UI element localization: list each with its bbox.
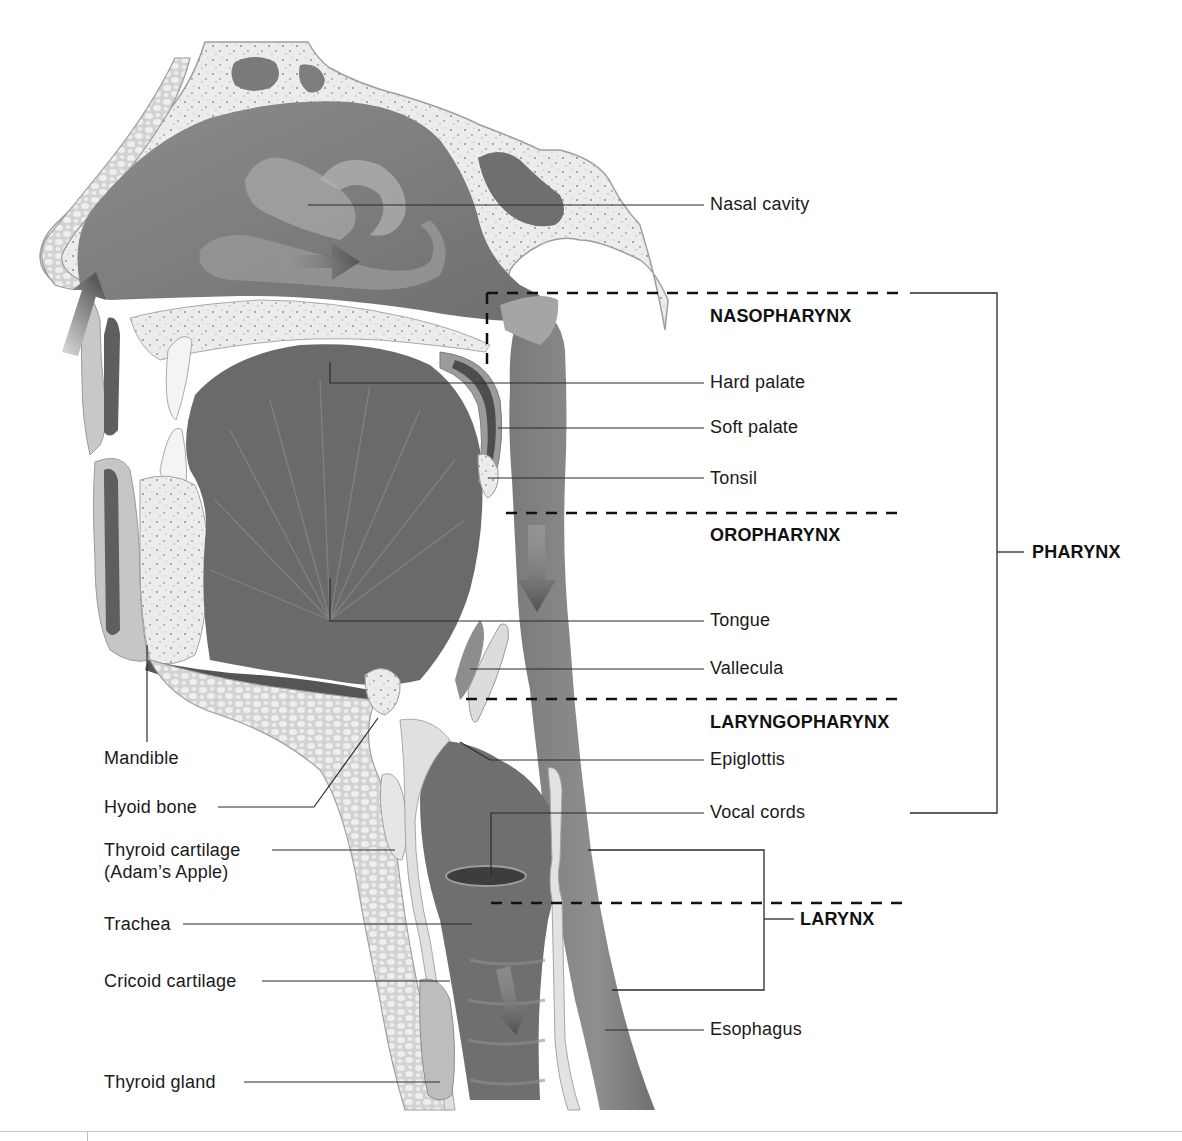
label-trachea: Trachea <box>104 913 171 935</box>
label-tongue: Tongue <box>710 609 770 631</box>
larynx-bracket <box>588 850 764 990</box>
leader-epiglottis <box>460 742 704 760</box>
region-label-nasopharynx: NASOPHARYNX <box>710 305 852 327</box>
label-cricoid-cartilage: Cricoid cartilage <box>104 970 236 992</box>
label-soft-palate: Soft palate <box>710 416 798 438</box>
label-hyoid-bone: Hyoid bone <box>104 796 197 818</box>
label-adams-apple: (Adam’s Apple) <box>104 861 229 883</box>
label-esophagus: Esophagus <box>710 1018 802 1040</box>
region-label-laryngopharynx: LARYNGOPHARYNX <box>710 711 889 733</box>
label-nasal-cavity: Nasal cavity <box>710 193 809 215</box>
region-label-oropharynx: OROPHARYNX <box>710 524 840 546</box>
label-thyroid-cartilage: Thyroid cartilage <box>104 839 240 861</box>
group-label-larynx: LARYNX <box>800 908 875 930</box>
lower-lip-muscle <box>104 469 120 635</box>
upper-lip-muscle <box>104 318 120 436</box>
pharynx-bracket <box>910 293 997 813</box>
label-epiglottis: Epiglottis <box>710 748 785 770</box>
tongue-shape <box>186 344 482 685</box>
anatomy-diagram: Nasal cavity Hard palate Soft palate Ton… <box>0 0 1182 1141</box>
label-hard-palate: Hard palate <box>710 371 805 393</box>
group-label-pharynx: PHARYNX <box>1032 541 1121 563</box>
mandible-shape <box>140 476 208 664</box>
page-footer-tick <box>87 1131 88 1141</box>
frontal-sinus <box>232 57 280 91</box>
label-thyroid-gland: Thyroid gland <box>104 1071 216 1093</box>
page-footer-rule <box>0 1131 1182 1132</box>
vocal-cord-shape <box>446 866 526 886</box>
label-vocal-cords: Vocal cords <box>710 801 805 823</box>
label-mandible: Mandible <box>104 747 179 769</box>
label-vallecula: Vallecula <box>710 657 784 679</box>
group-brackets <box>588 293 1024 990</box>
label-tonsil: Tonsil <box>710 467 757 489</box>
upper-tooth <box>166 337 192 420</box>
